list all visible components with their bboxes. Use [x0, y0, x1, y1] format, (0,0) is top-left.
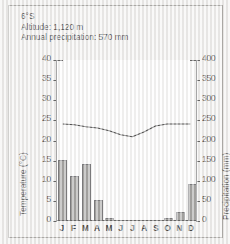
tick-label: 30: [42, 95, 51, 103]
tick-label: 0: [202, 216, 207, 224]
y-axis-title-temperature: Temperature (°C): [18, 152, 28, 216]
climograph-figure: 6°S Altitude: 1,120 m Annual precipitati…: [0, 0, 230, 244]
tick-label: 250: [202, 115, 216, 123]
month-label: O: [162, 223, 174, 233]
tick-label: 25: [42, 115, 51, 123]
tick-label: 40: [42, 55, 51, 63]
month-label: A: [138, 223, 150, 233]
tick-mark: [196, 60, 200, 61]
tick-mark: [196, 161, 200, 162]
tick-label: 10: [42, 176, 51, 184]
tick-label: 35: [42, 75, 51, 83]
annual-precipitation-label: Annual precipitation: 570 mm: [21, 32, 128, 43]
y-axis-title-precipitation: Precipitation (mm): [221, 153, 230, 220]
tick-label: 20: [42, 136, 51, 144]
tick-mark: [196, 120, 200, 121]
tick-label: 150: [202, 156, 216, 164]
tick-label: 350: [202, 75, 216, 83]
tick-mark: [196, 141, 200, 142]
month-label: S: [150, 223, 162, 233]
tick-label: 100: [202, 176, 216, 184]
month-label: D: [185, 223, 197, 233]
month-label: J: [115, 223, 127, 233]
figure-caption: 6°S Altitude: 1,120 m Annual precipitati…: [21, 11, 128, 43]
tick-mark: [53, 221, 57, 222]
tick-label: 200: [202, 136, 216, 144]
month-label: M: [80, 223, 92, 233]
month-label: J: [127, 223, 139, 233]
x-axis-month-labels: JFMAMJJASOND: [56, 223, 197, 233]
temperature-line: [57, 60, 196, 220]
month-label: J: [56, 223, 68, 233]
latitude-label: 6°S: [21, 11, 128, 22]
tick-mark: [196, 100, 200, 101]
tick-mark: [196, 181, 200, 182]
month-label: M: [103, 223, 115, 233]
tick-mark: [196, 80, 200, 81]
tick-label: 50: [202, 196, 211, 204]
figure-border: 6°S Altitude: 1,120 m Annual precipitati…: [8, 5, 223, 238]
month-label: A: [91, 223, 103, 233]
tick-label: 400: [202, 55, 216, 63]
month-label: F: [68, 223, 80, 233]
altitude-label: Altitude: 1,120 m: [21, 22, 128, 33]
tick-label: 5: [46, 196, 51, 204]
tick-mark: [196, 221, 200, 222]
month-label: N: [174, 223, 186, 233]
tick-label: 15: [42, 156, 51, 164]
tick-label: 300: [202, 95, 216, 103]
plot-area: 4035302520151050 40035030025020015010050…: [56, 60, 197, 221]
tick-label: 0: [46, 216, 51, 224]
